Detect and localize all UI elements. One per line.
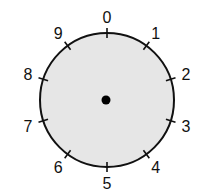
- dial-label-1: 1: [151, 25, 160, 42]
- center-dot: [102, 96, 111, 105]
- dial-label-7: 7: [24, 118, 33, 135]
- dial-label-8: 8: [24, 66, 33, 83]
- dial-label-3: 3: [181, 118, 190, 135]
- dial-label-5: 5: [103, 175, 112, 191]
- dial-diagram: 0123456789: [0, 0, 198, 191]
- dial-label-6: 6: [54, 159, 63, 176]
- dial-label-0: 0: [103, 9, 112, 26]
- dial-label-2: 2: [181, 66, 190, 83]
- dial-label-4: 4: [151, 159, 160, 176]
- dial-label-9: 9: [54, 25, 63, 42]
